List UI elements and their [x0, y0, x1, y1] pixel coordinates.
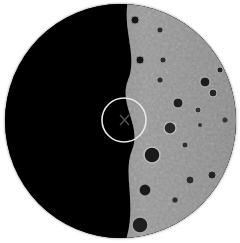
moon-view	[5, 4, 236, 238]
eyepiece-field	[5, 4, 236, 238]
